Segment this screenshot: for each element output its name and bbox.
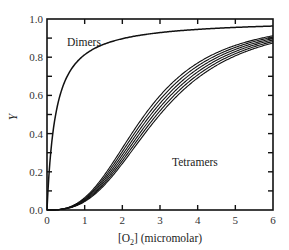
x-tick-label: 4 bbox=[195, 214, 201, 226]
tetramer-curve bbox=[47, 36, 273, 210]
x-tick-label: 2 bbox=[120, 214, 126, 226]
x-axis-ticks: 0123456 bbox=[44, 19, 276, 226]
y-tick-label: 0.0 bbox=[29, 204, 43, 216]
dimers-curve bbox=[47, 26, 273, 210]
tetramer-curve bbox=[47, 37, 273, 210]
tetramer-curve bbox=[47, 40, 273, 210]
x-tick-label: 3 bbox=[157, 214, 163, 226]
y-tick-label: 0.6 bbox=[29, 89, 43, 101]
x-tick-label: 0 bbox=[44, 214, 50, 226]
oxygen-binding-chart: 0123456 0.00.20.40.60.81.0 Y [O2] (micro… bbox=[0, 0, 289, 250]
x-axis-label: [O2] (micromolar) bbox=[118, 232, 202, 247]
tetramers-annotation: Tetramers bbox=[172, 156, 218, 168]
y-tick-label: 0.2 bbox=[29, 166, 43, 178]
x-tick-label: 1 bbox=[82, 214, 88, 226]
y-tick-label: 1.0 bbox=[29, 13, 43, 25]
x-tick-label: 5 bbox=[233, 214, 239, 226]
x-axis-label-rest: ] (micromolar) bbox=[134, 232, 202, 245]
tetramer-curve bbox=[47, 41, 273, 210]
y-tick-label: 0.8 bbox=[29, 51, 43, 63]
tetramer-curve bbox=[47, 43, 273, 210]
x-tick-label: 6 bbox=[270, 214, 276, 226]
dimers-annotation: Dimers bbox=[67, 36, 101, 48]
y-axis-label: Y bbox=[7, 112, 19, 120]
x-axis-label-main: [O bbox=[118, 232, 130, 244]
tetramer-curve bbox=[47, 39, 273, 211]
y-tick-label: 0.4 bbox=[29, 128, 43, 140]
plot-curves bbox=[47, 26, 273, 210]
